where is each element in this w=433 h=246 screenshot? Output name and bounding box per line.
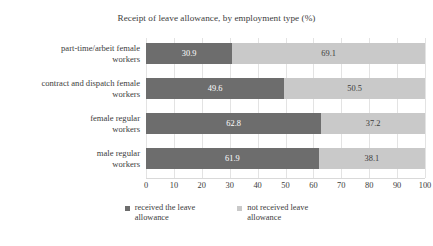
bar-segment-received: 62.8 [146,113,321,134]
y-axis-label: part-time/arbeit femaleworkers [0,43,140,64]
y-axis-category-labels: part-time/arbeit femaleworkerscontract a… [0,38,142,178]
y-axis-label: contract and dispatch femaleworkers [0,78,140,99]
bar-value-label: 69.1 [321,49,336,58]
x-tick-label: 30 [226,181,234,190]
legend-swatch-icon [237,206,242,211]
bar-value-label: 61.9 [225,154,240,163]
x-tick-label: 40 [253,181,261,190]
bar-row: 49.650.5 [146,78,425,99]
bar-segment-not-received: 69.1 [232,43,425,64]
x-axis-line [146,178,425,179]
bar-value-label: 50.5 [347,84,362,93]
legend-item[interactable]: received the leaveallowance [125,203,195,224]
bar-segment-received: 61.9 [146,148,319,169]
legend-item[interactable]: not received leaveallowance [237,203,308,224]
x-tick-label: 100 [419,181,432,190]
bar-segment-not-received: 38.1 [319,148,425,169]
x-axis-tick-labels: 0102030405060708090100 [146,181,425,195]
bar-value-label: 38.1 [365,154,380,163]
x-tick-label: 50 [281,181,289,190]
gridline [425,38,426,178]
bar-segment-received: 30.9 [146,43,232,64]
bar-value-label: 62.8 [226,119,241,128]
plot-area: 30.969.149.650.562.837.261.938.1 [146,38,425,178]
bar-value-label: 30.9 [182,49,197,58]
chart-container: Receipt of leave allowance, by employmen… [0,0,433,246]
x-tick-label: 60 [309,181,317,190]
y-axis-label: female regularworkers [0,113,140,134]
legend-label: received the leaveallowance [135,203,195,224]
legend-swatch-icon [125,206,130,211]
legend-label: not received leaveallowance [247,203,308,224]
x-tick-label: 0 [144,181,148,190]
x-tick-label: 80 [365,181,373,190]
bar-segment-received: 49.6 [146,78,284,99]
bar-row: 62.837.2 [146,113,425,134]
x-tick-label: 90 [393,181,401,190]
bar-row: 30.969.1 [146,43,425,64]
bar-row: 61.938.1 [146,148,425,169]
chart-legend: received the leaveallowancenot received … [0,203,433,224]
chart-title: Receipt of leave allowance, by employmen… [0,13,433,23]
x-tick-label: 10 [170,181,178,190]
bar-value-label: 49.6 [208,84,223,93]
x-tick-label: 20 [198,181,206,190]
bar-segment-not-received: 37.2 [321,113,425,134]
bar-segment-not-received: 50.5 [284,78,425,99]
bar-value-label: 37.2 [366,119,381,128]
x-tick-label: 70 [337,181,345,190]
y-axis-label: male regularworkers [0,148,140,169]
